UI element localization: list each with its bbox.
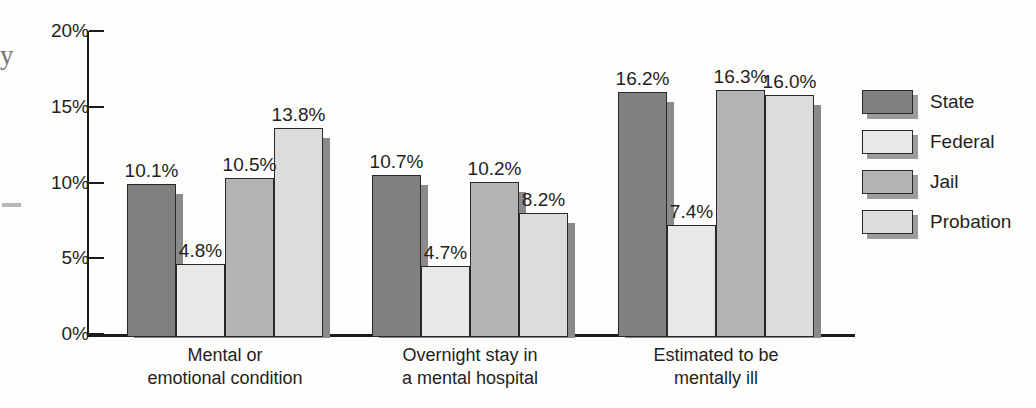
category-label-line: emotional condition <box>105 367 345 390</box>
legend-swatch <box>862 170 913 194</box>
bar-group: 10.7%4.7%10.2%8.2% <box>372 34 575 337</box>
bar-federal <box>667 225 716 337</box>
y-tick-0: 0% <box>28 333 89 335</box>
legend-swatch-wrap <box>862 130 918 157</box>
bar-probation <box>765 95 814 337</box>
legend-label: State <box>930 88 974 116</box>
legend-swatch-wrap <box>862 170 918 197</box>
category-label: Overnight stay ina mental hospital <box>350 344 590 390</box>
y-tick-label: 20% <box>41 21 89 40</box>
legend-swatch-wrap <box>862 210 918 237</box>
legend-label: Federal <box>930 128 994 156</box>
bar-value-label: 8.2% <box>511 190 576 210</box>
category-label-line: a mental hospital <box>350 367 590 390</box>
legend-label: Jail <box>930 168 959 196</box>
category-label-line: Mental or <box>105 344 345 367</box>
bar-federal <box>176 264 225 337</box>
legend-swatch-wrap <box>862 90 918 117</box>
category-label: Mental oremotional condition <box>105 344 345 390</box>
legend-swatch <box>862 130 913 154</box>
bar-value-label: 16.0% <box>757 72 822 92</box>
legend-swatch <box>862 210 913 234</box>
category-label-line: Estimated to be <box>596 344 836 367</box>
legend-item-federal: Federal <box>862 126 1032 166</box>
bar-value-label: 4.7% <box>413 243 478 263</box>
bar-value-label: 13.8% <box>266 105 331 125</box>
bar-probation <box>519 213 568 337</box>
bar-value-label: 10.7% <box>364 152 429 172</box>
category-label-line: Overnight stay in <box>350 344 590 367</box>
y-tick-20: 20% <box>28 30 89 32</box>
bar-value-label: 10.1% <box>119 161 184 181</box>
bar-value-label: 10.5% <box>217 155 282 175</box>
page-edge-dash-artifact <box>2 203 21 207</box>
bar-group: 10.1%4.8%10.5%13.8% <box>127 34 330 337</box>
legend-item-state: State <box>862 86 1032 126</box>
y-tick-label: 10% <box>41 173 89 192</box>
bar-chart: y 20%15%10%5%0% 10.1%4.8%10.5%13.8%10.7%… <box>0 0 1036 408</box>
bar-value-label: 10.2% <box>462 159 527 179</box>
bar-federal <box>421 266 470 337</box>
legend-item-probation: Probation <box>862 206 1032 246</box>
bar-value-label: 4.8% <box>168 241 233 261</box>
legend-label: Probation <box>930 208 1011 236</box>
legend: StateFederalJailProbation <box>862 86 1032 246</box>
y-tick-label: 15% <box>41 97 89 116</box>
legend-item-jail: Jail <box>862 166 1032 206</box>
category-label-line: mentally ill <box>596 367 836 390</box>
plot-area: 10.1%4.8%10.5%13.8%10.7%4.7%10.2%8.2%16.… <box>87 31 855 337</box>
bar-group: 16.2%7.4%16.3%16.0% <box>618 34 821 337</box>
y-tick-5: 5% <box>28 257 89 259</box>
y-tick-10: 10% <box>28 182 89 184</box>
y-tick-label: 0% <box>41 324 89 343</box>
y-tick-15: 15% <box>28 106 89 108</box>
bar-value-label: 16.2% <box>610 69 675 89</box>
page-edge-glyph-artifact: y <box>0 40 13 70</box>
bar-value-label: 7.4% <box>659 202 724 222</box>
legend-swatch <box>862 90 913 114</box>
y-tick-label: 5% <box>41 248 89 267</box>
category-label: Estimated to bementally ill <box>596 344 836 390</box>
